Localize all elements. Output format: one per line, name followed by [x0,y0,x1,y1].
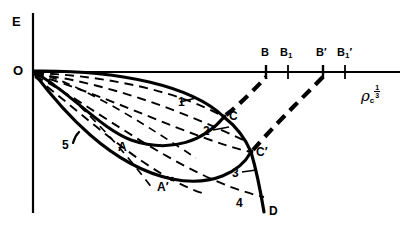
point-label-A-prime: A′ [157,181,169,193]
point-label-C: C [229,110,238,122]
y-axis-label: E [12,15,21,28]
tick-label-B1: B1 [280,47,292,60]
rho-symbol: ρ [361,87,370,105]
branch-Cprime-to-Bprime-path [253,77,323,150]
curve-label-5: 5 [62,139,69,151]
tick-label-B-prime: B′ [316,47,327,58]
leader-curve-3 [242,170,256,172]
envelope-lower-path [34,73,251,181]
curve-label-1: 1 [178,96,185,108]
rho-exponent: 13 [374,84,380,99]
energy-density-diagram: E O ρc13 B B1 B′ B1′ A A′ C C′ D 1 2 3 4… [0,0,416,227]
curve-inner-b-path [36,72,152,188]
curve-label-4: 4 [236,197,243,209]
curve-label-2: 2 [203,125,210,137]
curve-label-3: 3 [232,167,239,179]
point-Aprime-marker [170,177,174,181]
curve-5-path [73,132,79,143]
branch-CD-path [224,117,264,212]
x-axis-label: ρc13 [361,84,380,105]
point-label-C-prime: C′ [256,146,268,158]
point-Cprime-marker [249,150,254,155]
tick-label-B1-prime: B1′ [337,47,352,60]
curve-4-path [35,76,264,197]
point-label-A: A [118,141,127,153]
diagram-canvas [0,0,416,227]
origin-label: O [13,64,23,77]
point-C-marker [222,115,227,120]
tick-label-B: B [261,47,269,58]
point-label-D: D [269,205,278,217]
